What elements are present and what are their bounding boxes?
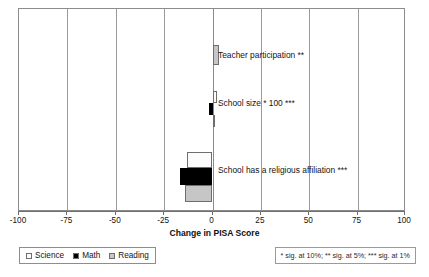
x-tick-label--50: -50 xyxy=(95,216,135,226)
bar-label-religious-affiliation: School has a religious affiliation *** xyxy=(218,165,347,175)
x-tick-50 xyxy=(308,211,309,215)
x-tick-100 xyxy=(404,211,405,215)
legend-label-math: Math xyxy=(82,251,100,260)
gridline--25 xyxy=(164,9,165,210)
significance-note: * sig. at 10%; ** sig. at 5%; *** sig. a… xyxy=(275,247,416,264)
gridline-25 xyxy=(261,9,262,210)
legend-item-reading: Reading xyxy=(109,251,149,260)
bar-school-size-science xyxy=(213,91,217,103)
bar-label-school-size: School size * 100 *** xyxy=(218,98,295,108)
legend-item-math: Math xyxy=(73,251,100,260)
x-tick-label--100: -100 xyxy=(0,216,38,226)
x-tick-label--25: -25 xyxy=(143,216,183,226)
legend-swatch-science-icon xyxy=(26,253,32,259)
x-tick--100 xyxy=(18,211,19,215)
x-tick-75 xyxy=(357,211,358,215)
x-tick-label-75: 75 xyxy=(337,216,377,226)
gridline-zero xyxy=(213,9,214,210)
gridline-75 xyxy=(358,9,359,210)
gridline-50 xyxy=(309,9,310,210)
pisa-score-bar-chart: Teacher participation ** School size * 1… xyxy=(0,0,429,277)
x-tick--75 xyxy=(66,211,67,215)
legend-item-science: Science xyxy=(26,251,64,260)
bar-school-size-reading xyxy=(213,115,215,127)
legend-swatch-math-icon xyxy=(73,253,79,259)
bar-school-size-math xyxy=(209,103,213,115)
bar-religious-affiliation-math xyxy=(180,168,213,185)
x-tick-label--75: -75 xyxy=(46,216,86,226)
x-tick--25 xyxy=(163,211,164,215)
x-tick-label-0: 0 xyxy=(192,216,232,226)
gridline--50 xyxy=(116,9,117,210)
x-tick--50 xyxy=(115,211,116,215)
legend-label-reading: Reading xyxy=(118,251,149,260)
plot-area xyxy=(18,8,405,211)
x-tick-label-100: 100 xyxy=(384,216,424,226)
legend-swatch-reading-icon xyxy=(109,253,115,259)
bar-label-teacher-participation: Teacher participation ** xyxy=(218,50,304,60)
bar-religious-affiliation-science xyxy=(187,152,212,168)
x-tick-0 xyxy=(212,211,213,215)
chart-legend: Science Math Reading xyxy=(19,247,156,264)
bar-religious-affiliation-reading xyxy=(185,185,212,202)
x-tick-label-25: 25 xyxy=(240,216,280,226)
legend-label-science: Science xyxy=(35,251,64,260)
x-tick-label-50: 50 xyxy=(288,216,328,226)
gridline--75 xyxy=(67,9,68,210)
x-axis-title: Change in PISA Score xyxy=(0,228,429,238)
x-tick-25 xyxy=(260,211,261,215)
